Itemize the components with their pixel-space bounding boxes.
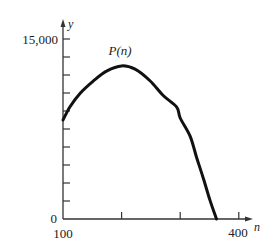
x-axis-label: n: [254, 220, 260, 234]
profit-curve: [63, 66, 217, 219]
x-min-tick-label: 100: [53, 226, 73, 241]
y-max-tick-label: 15,000: [22, 32, 58, 47]
profit-function-chart: y n 15,000 0 100 400 P(n): [0, 0, 271, 249]
x-axis-arrow-icon: [245, 217, 253, 222]
y-zero-tick-label: 0: [51, 211, 58, 226]
x-max-tick-label: 400: [228, 225, 248, 240]
y-axis-label: y: [67, 17, 74, 31]
y-axis-arrow-icon: [61, 19, 66, 27]
x-axis-ticks: [122, 212, 239, 219]
curve-label: P(n): [107, 43, 131, 58]
